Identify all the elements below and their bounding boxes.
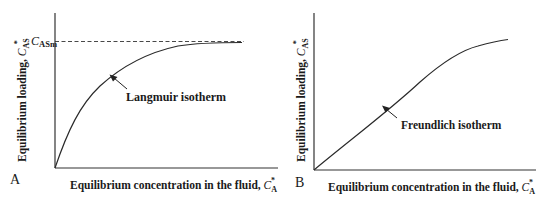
freundlich-label: Freundlich isotherm: [401, 120, 501, 132]
panel-b-x-axis-label: Equilibrium concentration in the fluid, …: [328, 179, 533, 196]
panel-a-x-superscript: *: [271, 176, 275, 185]
panel-b-y-subscript: AS: [301, 38, 310, 48]
panel-a-x-axis-label: Equilibrium concentration in the fluid, …: [70, 177, 275, 194]
panel-b-x-superscript: *: [529, 178, 533, 187]
panel-a-x-label-text: Equilibrium concentration in the fluid,: [70, 179, 264, 191]
asymptote-label: CASm: [31, 35, 57, 49]
panel-b-y-superscript: *: [292, 40, 301, 44]
langmuir-pointer-arrow: [114, 78, 127, 89]
langmuir-curve: [55, 43, 242, 169]
panel-b-y-symbol: C: [295, 49, 307, 57]
panel-a-y-subscript: AS: [22, 38, 31, 48]
diagram-canvas: [0, 0, 546, 197]
panel-b-y-axis-label: Equilibrium loading, CAS*: [293, 40, 310, 162]
panel-a-letter: A: [10, 173, 20, 187]
langmuir-label: Langmuir isotherm: [126, 91, 226, 103]
panel-b-x-label-text: Equilibrium concentration in the fluid,: [328, 181, 522, 193]
panel-a-y-axis-label: Equilibrium loading, CAS*: [14, 40, 31, 162]
asymptote-subscript: ASm: [39, 39, 57, 49]
asymptote-symbol: C: [31, 34, 39, 48]
panel-b-y-label-text: Equilibrium loading,: [295, 56, 307, 162]
panel-a-y-symbol: C: [16, 49, 28, 57]
panel-a-x-subscript: A: [271, 185, 277, 194]
panel-b-x-subscript: A: [529, 187, 535, 196]
panel-a-y-label-text: Equilibrium loading,: [16, 56, 28, 162]
freundlich-curve: [314, 40, 508, 171]
panel-a-y-superscript: *: [13, 40, 22, 44]
panel-b-letter: B: [295, 176, 304, 190]
